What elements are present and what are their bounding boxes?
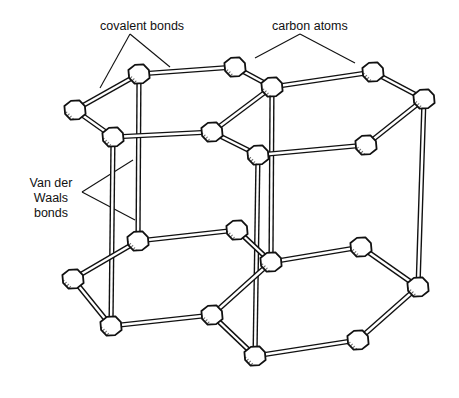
covalent-bond [113, 132, 212, 137]
carbon-atom [353, 135, 377, 158]
carbon-atom [62, 100, 86, 123]
covalent-bond [212, 262, 271, 315]
covalent-bond [366, 99, 424, 145]
covalent-bond [358, 287, 418, 340]
van-der-waals-bond [138, 74, 139, 241]
van-der-waals-label: Van der Waals bonds [22, 176, 80, 221]
covalent-bond [111, 315, 212, 326]
covalent-bond [271, 247, 361, 262]
covalent-bond [139, 67, 235, 74]
carbon-atom [126, 64, 150, 87]
covalent-bond [138, 230, 237, 241]
van-der-waals-bond [111, 137, 113, 326]
van-der-waals-bond [255, 155, 258, 356]
covalent-bond [255, 340, 358, 356]
carbon-atom [360, 62, 384, 85]
covalent-bond [272, 72, 373, 87]
van-der-waals-label-line1: Van der [22, 176, 80, 191]
carbon-atom [125, 231, 149, 254]
van-der-waals-label-line2: Waals [22, 191, 80, 206]
covalent-bond [73, 241, 138, 279]
covalent-bond [212, 87, 272, 132]
carbon-atom [345, 330, 369, 353]
van-der-waals-label-line3: bonds [22, 206, 80, 221]
carbon-atom [222, 57, 246, 80]
carbon-atom [98, 316, 122, 339]
van-der-waals-bonds [111, 74, 424, 356]
carbon-atom [348, 237, 372, 260]
carbon-atoms-label: carbon atoms [272, 19, 348, 34]
carbon-atom [199, 122, 223, 145]
van-der-waals-bond [271, 87, 272, 262]
covalent-bonds-label: covalent bonds [100, 19, 184, 34]
van-der-waals-bond [418, 99, 424, 287]
